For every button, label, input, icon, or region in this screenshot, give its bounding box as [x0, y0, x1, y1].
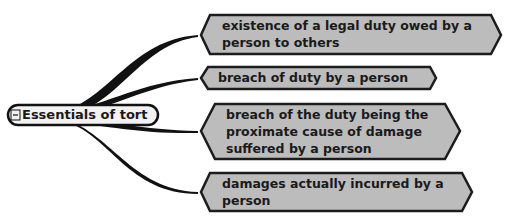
- branch-node-3-shape[interactable]: [201, 104, 460, 159]
- root-node-label[interactable]: Essentials of tort: [22, 106, 147, 124]
- branch-node-4-shape[interactable]: [201, 173, 472, 211]
- branch-node-1-shape[interactable]: [201, 15, 501, 54]
- branch-node-2-shape[interactable]: [201, 67, 436, 89]
